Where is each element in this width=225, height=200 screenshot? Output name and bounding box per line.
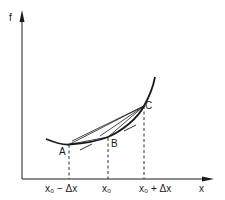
y-axis <box>20 10 25 179</box>
x-axis <box>22 177 214 182</box>
tangent-segment-left <box>80 144 92 150</box>
secant-inner <box>72 106 144 141</box>
x-axis-arrow-icon <box>202 177 214 182</box>
point-a-label: A <box>59 147 66 157</box>
diagram-canvas <box>0 0 225 200</box>
y-axis-arrow-icon <box>20 10 25 22</box>
secant-lines <box>69 106 144 145</box>
point-b-label: B <box>111 139 118 149</box>
y-axis-label: f <box>9 13 12 23</box>
secant-inner-2 <box>100 106 144 136</box>
x-axis-label: x <box>199 184 204 194</box>
tick-label-x0-minus-dx: x₀ − Δx <box>45 184 77 194</box>
tick-label-x0: x₀ <box>102 184 111 194</box>
point-c-label: C <box>145 101 152 111</box>
tick-label-x0-plus-dx: x₀ + Δx <box>139 184 171 194</box>
secant-ab <box>69 137 108 145</box>
